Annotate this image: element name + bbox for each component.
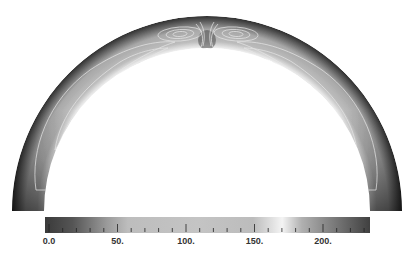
tick-label: 200. bbox=[314, 236, 332, 246]
tick-label: 0.0 bbox=[43, 236, 56, 246]
tick-label: 50. bbox=[111, 236, 124, 246]
field-region bbox=[0, 0, 412, 211]
tick-label: 100. bbox=[177, 236, 195, 246]
tick-label: 150. bbox=[246, 236, 264, 246]
semi-annulus-heatmap bbox=[0, 0, 412, 255]
colorbar bbox=[45, 217, 370, 233]
